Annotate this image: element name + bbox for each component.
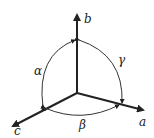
axis-a xyxy=(77,93,143,110)
label-a: a xyxy=(139,115,146,129)
label-c: c xyxy=(14,124,21,138)
label-b: b xyxy=(84,12,92,26)
label-gamma: γ xyxy=(118,53,126,67)
arc-gamma xyxy=(79,40,122,103)
unit-cell-diagram: b a c α γ β xyxy=(0,0,154,138)
arc-beta xyxy=(45,105,119,115)
label-alpha: α xyxy=(34,64,42,78)
label-beta: β xyxy=(78,118,86,132)
axis-c xyxy=(13,93,77,126)
